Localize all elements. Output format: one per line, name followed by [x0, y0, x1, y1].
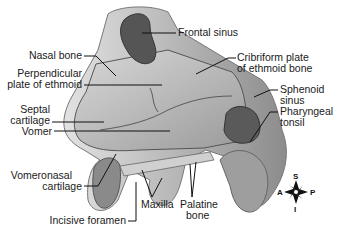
- label-vomer: Vomer: [2, 126, 52, 137]
- label-frontal-sinus: Frontal sinus: [178, 27, 238, 38]
- label-cribriform-plate-line2: of ethmoid bone: [237, 63, 312, 74]
- compass-posterior-label: P: [310, 188, 315, 197]
- label-pharyngeal-tonsil-line2: tonsil: [280, 117, 305, 128]
- label-incisive-foramen: Incisive foramen: [30, 215, 126, 226]
- label-palatine-bone-line2: bone: [186, 210, 209, 221]
- compass-inferior-label: I: [294, 205, 296, 214]
- compass-anterior-label: A: [277, 188, 283, 197]
- nasal-cavity-diagram: Frontal sinus Nasal bone Cribriform plat…: [0, 0, 340, 229]
- label-perpendicular-plate-line2: plate of ethmoid: [2, 79, 82, 90]
- label-vomeronasal-cartilage-line2: cartilage: [2, 181, 82, 192]
- orientation-compass-icon: [284, 180, 308, 204]
- compass-superior-label: S: [293, 172, 298, 181]
- label-nasal-bone: Nasal bone: [20, 50, 82, 61]
- label-maxilla: Maxilla: [141, 199, 174, 210]
